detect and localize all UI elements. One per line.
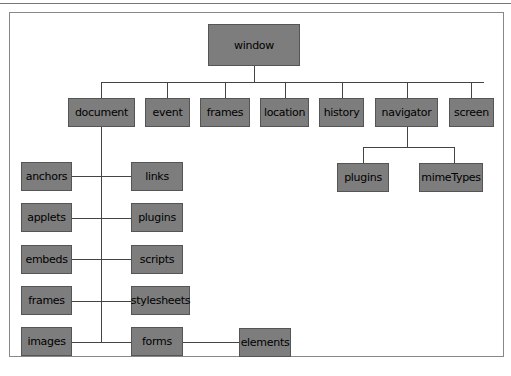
node-event: event xyxy=(145,98,190,127)
connector-navigator-down xyxy=(407,127,408,147)
node-anchors: anchors xyxy=(21,162,72,191)
connector-document-trunk xyxy=(101,127,102,342)
connector-frames-stylesheets xyxy=(72,301,132,302)
node-location: location xyxy=(260,98,309,127)
node-elements: elements xyxy=(239,328,291,357)
connector-embeds-scripts xyxy=(72,259,132,260)
node-links: links xyxy=(131,162,183,191)
node-navigator-plugins: plugins xyxy=(337,163,389,192)
node-navigator: navigator xyxy=(375,98,438,127)
node-scripts: scripts xyxy=(131,245,183,274)
connector-forms-elements xyxy=(182,342,239,343)
connector-applets-plugins xyxy=(72,218,132,219)
connector-window xyxy=(254,66,255,82)
top-rule xyxy=(0,3,511,4)
connector-mimetypes xyxy=(454,147,455,163)
connector-anchors-links xyxy=(72,176,132,177)
connector-history xyxy=(342,82,343,98)
node-mimetypes: mimeTypes xyxy=(419,163,483,192)
node-embeds: embeds xyxy=(21,245,72,274)
node-applets: applets xyxy=(21,203,72,232)
connector-event xyxy=(167,82,168,98)
node-history: history xyxy=(319,98,364,127)
connector-nav-plugins xyxy=(363,147,364,163)
node-screen: screen xyxy=(449,98,494,127)
connector-document xyxy=(101,82,102,98)
node-plugins: plugins xyxy=(131,203,183,232)
node-images: images xyxy=(21,327,72,356)
connector-images-forms xyxy=(72,342,132,343)
node-frames: frames xyxy=(200,98,250,127)
connector-row1-bus xyxy=(101,82,484,83)
connector-frames xyxy=(225,82,226,98)
connector-navigator-bus xyxy=(363,147,454,148)
connector-location xyxy=(285,82,286,98)
node-window: window xyxy=(208,24,300,66)
node-forms: forms xyxy=(131,327,183,356)
connector-navigator xyxy=(407,82,408,98)
connector-screen xyxy=(471,82,472,98)
node-document: document xyxy=(68,98,135,127)
node-stylesheets: stylesheets xyxy=(131,286,190,315)
node-document-frames: frames xyxy=(21,286,72,315)
